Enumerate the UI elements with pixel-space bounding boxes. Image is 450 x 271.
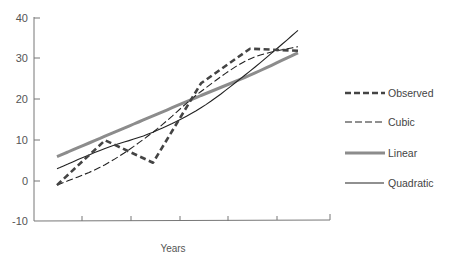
series-layer <box>57 30 298 185</box>
x-axis: Years <box>34 214 330 254</box>
y-tick-label: 0 <box>22 175 28 187</box>
legend-item-cubic: Cubic <box>345 116 415 128</box>
legend: Observed Cubic Linear Quadratic <box>345 87 434 189</box>
y-axis: 40 30 20 10 0 -10 <box>12 12 40 227</box>
y-tick-label: 10 <box>16 134 28 146</box>
y-tick-label: -10 <box>12 215 28 227</box>
series-cubic <box>57 47 298 185</box>
y-tick-label: 40 <box>16 12 28 24</box>
y-tick-label: 30 <box>16 52 28 64</box>
legend-item-linear: Linear <box>345 147 418 159</box>
legend-label: Observed <box>388 87 434 99</box>
legend-label: Linear <box>388 147 418 159</box>
legend-item-quadratic: Quadratic <box>345 177 434 189</box>
line-chart: 40 30 20 10 0 -10 Years Observed Cubic L… <box>0 0 450 271</box>
legend-item-observed: Observed <box>345 87 434 99</box>
legend-label: Cubic <box>388 116 415 128</box>
x-axis-title: Years <box>160 243 185 254</box>
series-quadratic <box>57 30 298 168</box>
legend-label: Quadratic <box>388 177 434 189</box>
y-tick-label: 20 <box>16 93 28 105</box>
series-linear <box>57 53 298 157</box>
